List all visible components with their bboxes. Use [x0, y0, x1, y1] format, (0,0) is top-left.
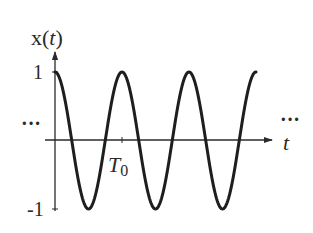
- cosine-signal-plot: x(t) 1 -1 ··· ··· t T0: [0, 0, 313, 233]
- y-axis-label: x(t): [31, 25, 63, 50]
- y-tick-label-min: -1: [27, 198, 44, 220]
- y-tick-label-max: 1: [33, 61, 43, 83]
- x-axis-label: t: [283, 130, 290, 155]
- ellipsis-left: ···: [21, 112, 41, 134]
- period-label: T0: [108, 152, 128, 179]
- ellipsis-right: ···: [280, 108, 300, 130]
